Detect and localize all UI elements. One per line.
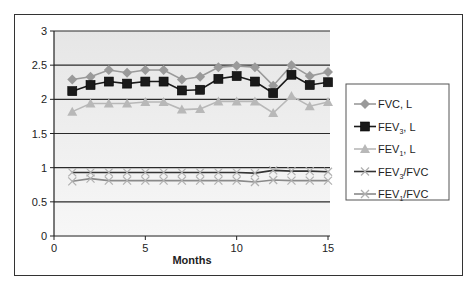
y-tick-label: 2.5	[32, 59, 47, 71]
legend-label: FEV1/FVC	[378, 188, 428, 202]
y-tick-label: 1	[41, 162, 47, 174]
x-tick-label: 0	[51, 242, 57, 254]
x-tick-label: 10	[231, 242, 243, 254]
y-tick-label: 3	[41, 25, 47, 37]
y-tick-label: 0	[41, 230, 47, 242]
x-tick-label: 15	[322, 242, 334, 254]
x-tick-label: 5	[142, 242, 148, 254]
legend: FVC, LFEV3, LFEV1, LFEV3/FVCFEV1/FVC	[346, 84, 449, 202]
y-tick-label: 1.5	[32, 128, 47, 140]
legend-label: FEV1, L	[378, 143, 416, 157]
y-tick-label: 2	[41, 93, 47, 105]
x-axis-title: Months	[172, 254, 211, 266]
y-tick-label: 0.5	[32, 196, 47, 208]
legend-label: FVC, L	[378, 98, 412, 110]
legend-label: FEV3/FVC	[378, 166, 428, 180]
line-chart: 00.511.522.53051015 Months FVC, LFEV3, L…	[0, 0, 475, 288]
legend-label: FEV3, L	[378, 121, 416, 135]
